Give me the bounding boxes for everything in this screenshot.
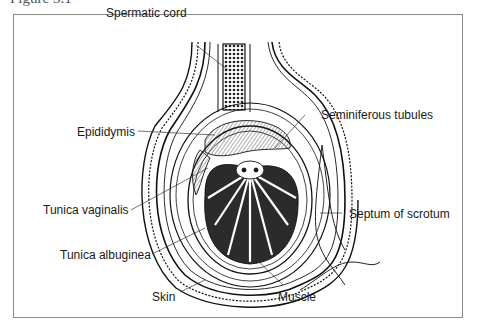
label-muscle: Muscle	[278, 290, 316, 304]
label-tunica-albuginea: Tunica albuginea	[60, 248, 151, 262]
spermatic-cord	[218, 44, 250, 112]
seminiferous-lobules	[205, 161, 298, 264]
label-septum-of-scrotum: Septum of scrotum	[349, 207, 450, 221]
testis-illustration	[0, 0, 479, 330]
label-tunica-vaginalis: Tunica vaginalis	[43, 203, 129, 217]
label-spermatic-cord: Spermatic cord	[106, 6, 187, 20]
label-epididymis: Epididymis	[77, 125, 135, 139]
label-skin: Skin	[152, 290, 175, 304]
label-seminiferous-tubules: Seminiferous tubules	[321, 108, 433, 122]
